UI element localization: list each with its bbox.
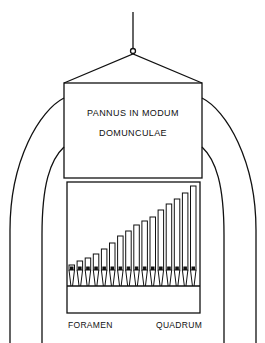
pipe <box>174 199 180 270</box>
pipe <box>142 221 148 270</box>
label-quadrum: QUADRUM <box>156 320 202 330</box>
suspension-ring <box>131 49 136 54</box>
pipe <box>126 231 132 270</box>
organ-pipes <box>69 186 196 286</box>
label-foramen: FORAMEN <box>68 320 113 330</box>
pipe <box>166 204 172 270</box>
pipe <box>191 186 197 270</box>
pipe <box>158 210 164 270</box>
roof-triangle <box>64 54 202 83</box>
organ-diagram <box>0 0 265 343</box>
pipe <box>150 217 156 270</box>
pipe <box>134 225 140 270</box>
pipe <box>110 243 116 270</box>
upper-box-title-line2: DOMUNCULAE <box>64 124 202 143</box>
upper-box-title-line1: PANNUS IN MODUM <box>64 104 202 123</box>
pipe <box>182 193 188 270</box>
pipe <box>118 236 124 270</box>
